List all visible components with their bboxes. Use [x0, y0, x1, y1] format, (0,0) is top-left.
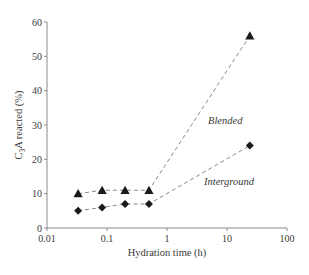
- y-tick-label: 40: [32, 85, 42, 96]
- diamond-marker: [98, 203, 106, 211]
- chart: 01020304050600.010.1110100 BlendedInterg…: [0, 0, 309, 275]
- diamond-marker: [246, 142, 254, 150]
- diamond-marker: [145, 200, 153, 208]
- x-tick-label: 0.1: [101, 233, 114, 244]
- x-tick-label: 10: [222, 233, 232, 244]
- triangle-marker: [98, 186, 107, 194]
- x-tick-label: 1: [165, 233, 170, 244]
- y-axis-label: C3A reacted (%): [13, 90, 27, 160]
- diamond-marker: [74, 207, 82, 215]
- y-tick-label: 60: [32, 17, 42, 28]
- y-tick-label: 50: [32, 51, 42, 62]
- x-tick-label: 100: [280, 233, 295, 244]
- x-tick-label: 0.01: [38, 233, 56, 244]
- y-tick-label: 10: [32, 188, 42, 199]
- series-blended: Blended: [74, 31, 255, 197]
- triangle-marker: [144, 186, 153, 194]
- diamond-marker: [121, 200, 129, 208]
- y-tick-label: 30: [32, 120, 42, 131]
- series-label-blended: Blended: [208, 115, 243, 126]
- y-tick-label: 20: [32, 154, 42, 165]
- triangle-marker: [120, 186, 129, 194]
- series-group: BlendedInterground: [74, 31, 255, 215]
- x-axis-label: Hydration time (h): [128, 247, 207, 259]
- y-axis-label-pre: C: [13, 153, 24, 160]
- triangle-marker: [245, 31, 254, 39]
- y-axis-label-post: A reacted (%): [13, 90, 25, 149]
- series-interground: Interground: [74, 142, 255, 215]
- axes: 01020304050600.010.1110100: [32, 17, 295, 245]
- series-label-interground: Interground: [203, 176, 255, 187]
- y-tick-label: 0: [37, 223, 42, 234]
